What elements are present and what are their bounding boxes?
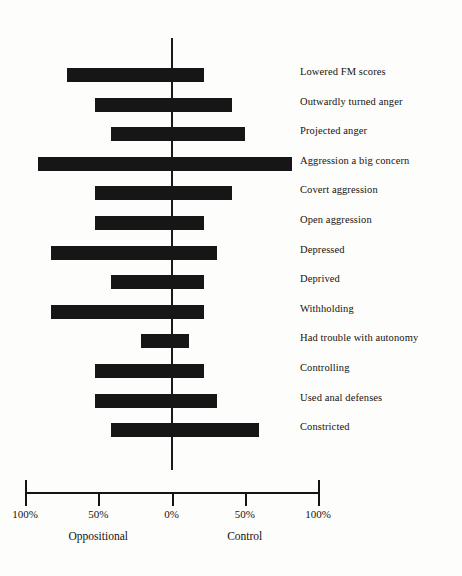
- bar: [95, 186, 231, 200]
- bar-row: Projected anger: [0, 119, 340, 147]
- axis-tick-label: 0%: [164, 508, 179, 520]
- bar-category-label: Withholding: [300, 303, 354, 314]
- bar-category-label: Aggression a big concern: [300, 155, 409, 166]
- plot-area: Lowered FM scoresOutwardly turned angerP…: [0, 0, 340, 470]
- axis-tick: [25, 480, 27, 506]
- bar-category-label: Covert aggression: [300, 184, 378, 195]
- bar-row: Aggression a big concern: [0, 149, 340, 177]
- bar-category-label: Projected anger: [300, 125, 367, 136]
- bar-row: Controlling: [0, 356, 340, 384]
- bar-row: Deprived: [0, 267, 340, 295]
- axis-tick: [172, 492, 174, 506]
- bar-row: Open aggression: [0, 208, 340, 236]
- axis-tick: [245, 492, 247, 506]
- bar-category-label: Lowered FM scores: [300, 66, 386, 77]
- bar-category-label: Controlling: [300, 362, 350, 373]
- bar-row: Used anal defenses: [0, 386, 340, 414]
- bar-category-label: Open aggression: [300, 214, 372, 225]
- x-axis-tick-labels: 100%50%0%50%100%: [0, 508, 340, 526]
- bar-category-label: Depressed: [300, 244, 345, 255]
- bar: [141, 334, 189, 348]
- bar-row: Lowered FM scores: [0, 60, 340, 88]
- axis-group-caption: Oppositional: [69, 530, 128, 542]
- x-axis: [0, 478, 340, 508]
- bar: [111, 423, 259, 437]
- bar-category-label: Used anal defenses: [300, 392, 382, 403]
- bar-row: Withholding: [0, 297, 340, 325]
- axis-group-caption: Control: [227, 530, 262, 542]
- bar: [95, 216, 203, 230]
- diverging-bar-chart: Lowered FM scoresOutwardly turned angerP…: [0, 0, 462, 576]
- axis-group-captions: OppositionalControl: [0, 530, 340, 550]
- bar: [95, 394, 217, 408]
- bar: [111, 275, 203, 289]
- bar: [95, 364, 203, 378]
- axis-tick-label: 100%: [305, 508, 331, 520]
- bar-row: Depressed: [0, 238, 340, 266]
- axis-tick: [98, 492, 100, 506]
- bar: [51, 305, 203, 319]
- bar-category-label: Had trouble with autonomy: [300, 332, 418, 343]
- bar-category-label: Constricted: [300, 421, 350, 432]
- bar: [51, 246, 217, 260]
- bar-category-label: Outwardly turned anger: [300, 96, 403, 107]
- axis-tick: [318, 480, 320, 506]
- bar-row: Covert aggression: [0, 178, 340, 206]
- bar: [67, 68, 203, 82]
- bar: [95, 98, 231, 112]
- bar-row: Outwardly turned anger: [0, 90, 340, 118]
- bar-row: Had trouble with autonomy: [0, 326, 340, 354]
- axis-tick-label: 50%: [235, 508, 255, 520]
- axis-tick-label: 100%: [12, 508, 38, 520]
- axis-tick-label: 50%: [88, 508, 108, 520]
- bar: [111, 127, 244, 141]
- bar-row: Constricted: [0, 415, 340, 443]
- bar: [38, 157, 291, 171]
- bar-category-label: Deprived: [300, 273, 340, 284]
